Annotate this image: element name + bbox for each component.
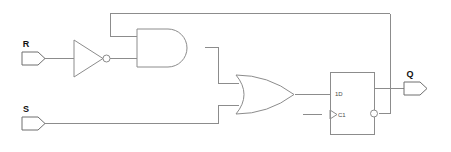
not-gate-bubble-icon <box>103 55 110 62</box>
circuit-diagram-canvas: R S Q 1D C1 <box>0 0 451 152</box>
input-pin-r-shape[interactable] <box>22 52 45 65</box>
flipflop-clock-triangle-icon <box>330 110 337 119</box>
wire-feedback-drop <box>379 14 390 114</box>
and-gate-body <box>137 29 187 67</box>
not-gate-body <box>74 40 103 77</box>
output-pin-q-shape[interactable] <box>404 82 427 95</box>
input-pin-s-shape[interactable] <box>22 117 45 130</box>
output-pin-q-label: Q <box>406 69 413 79</box>
circuit-svg: R S Q 1D C1 <box>0 0 451 152</box>
wire-feedback-top-rail <box>110 14 390 37</box>
wire-s-to-or <box>45 106 239 124</box>
flipflop-clock-input-label: C1 <box>338 112 346 118</box>
flipflop-data-input-label: 1D <box>335 91 343 97</box>
input-pin-r-label: R <box>23 39 30 49</box>
or-gate-body <box>236 75 294 114</box>
flipflop-body <box>330 72 374 134</box>
wire-and-to-or <box>205 48 239 84</box>
input-pin-s-label: S <box>23 104 29 114</box>
flipflop-qbar-bubble-icon <box>371 110 378 117</box>
